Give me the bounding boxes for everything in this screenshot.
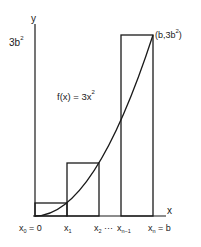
parabola-curve: [35, 35, 153, 216]
y-axis-label-text: y: [31, 13, 36, 24]
y-tick-3b2: 3b2: [9, 38, 23, 48]
x-tick-base: x: [148, 223, 153, 233]
x-tick-1: x1: [64, 224, 72, 233]
x-tick-0: x0 = 0: [19, 224, 42, 233]
endpoint-label-exponent: 2: [176, 28, 179, 34]
endpoint-label-suffix: ): [179, 30, 182, 40]
x-tick-sub: n−1: [122, 228, 131, 234]
y-tick-exponent: 2: [20, 35, 23, 41]
x-tick-sub: 2: [99, 228, 102, 234]
y-axis-label: y: [31, 14, 36, 24]
y-tick-base: 3b: [9, 37, 20, 48]
x-tick-base: x: [19, 223, 24, 233]
x-tick-suffix: = 0: [27, 223, 42, 233]
x-axis-label: x: [167, 206, 172, 216]
x-tick-base: x: [64, 223, 69, 233]
x-tick-sub: n: [153, 228, 156, 234]
x-tick-suffix: ···: [102, 223, 114, 233]
x-tick-n-minus-1: xn−1: [117, 224, 131, 233]
x-tick-base: x: [117, 223, 122, 233]
x-tick-2: x2 ···: [94, 224, 113, 233]
rectangle-n: [121, 35, 153, 216]
x-tick-base: x: [94, 223, 99, 233]
x-tick-sub: 1: [69, 228, 72, 234]
x-axis-label-text: x: [167, 205, 172, 216]
rectangle-1: [35, 203, 67, 216]
endpoint-label-prefix: (b,3b: [155, 30, 176, 40]
function-label-text: f(x) = 3x: [57, 91, 92, 102]
function-label: f(x) = 3x2: [57, 92, 95, 102]
x-tick-n: xn = b: [148, 224, 171, 233]
endpoint-label: (b,3b2): [155, 31, 182, 40]
x-tick-sub: 0: [24, 228, 27, 234]
function-label-exponent: 2: [92, 89, 95, 95]
x-tick-suffix: = b: [156, 223, 171, 233]
